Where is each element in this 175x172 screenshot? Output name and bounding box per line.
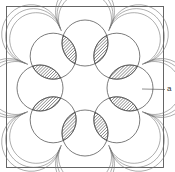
leader-line-a bbox=[142, 89, 165, 90]
hatched-overlaps bbox=[33, 36, 138, 141]
diagram-figure bbox=[0, 0, 175, 172]
outline-line bbox=[0, 0, 175, 172]
label-a: a bbox=[167, 85, 171, 93]
ring-circles bbox=[17, 20, 153, 156]
scalloped-outline bbox=[0, 0, 175, 172]
outline-line bbox=[0, 0, 175, 172]
outline-line bbox=[0, 0, 175, 172]
frame bbox=[7, 7, 164, 168]
